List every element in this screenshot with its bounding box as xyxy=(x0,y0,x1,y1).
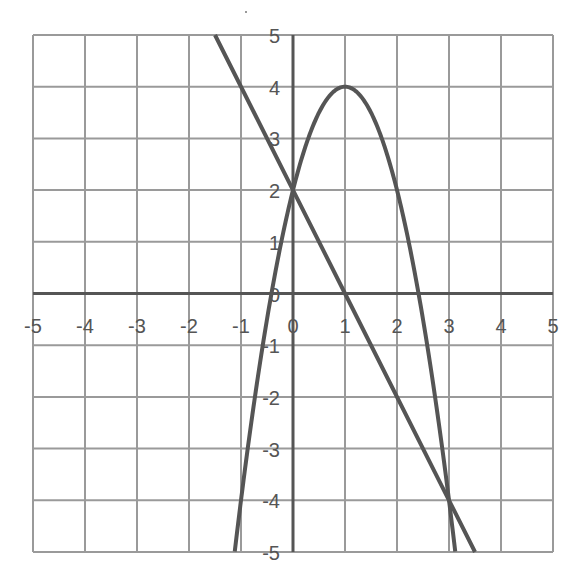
x-tick-label: 0 xyxy=(287,315,298,337)
y-tick-label: 5 xyxy=(269,25,280,47)
y-tick-label: -2 xyxy=(262,387,280,409)
x-tick-label: -2 xyxy=(180,315,198,337)
axes xyxy=(33,35,553,552)
x-tick-label: 1 xyxy=(339,315,350,337)
x-tick-label: -3 xyxy=(128,315,146,337)
x-tick-label: -4 xyxy=(76,315,94,337)
x-tick-label: 2 xyxy=(391,315,402,337)
speck-artifact xyxy=(245,11,247,13)
x-tick-labels: -5-4-3-2-1012345 xyxy=(24,315,558,337)
y-tick-label: 0 xyxy=(269,284,280,306)
y-tick-label: 2 xyxy=(269,180,280,202)
coordinate-plane-chart: -5-4-3-2-1012345 543210-1-2-3-4-5 xyxy=(0,0,585,580)
x-tick-label: 4 xyxy=(495,315,506,337)
x-tick-label: -5 xyxy=(24,315,42,337)
x-tick-label: -1 xyxy=(232,315,250,337)
y-tick-label: -4 xyxy=(262,490,280,512)
y-tick-label: 1 xyxy=(269,232,280,254)
x-tick-label: 5 xyxy=(547,315,558,337)
y-tick-label: 4 xyxy=(269,77,280,99)
x-tick-label: 3 xyxy=(443,315,454,337)
y-tick-label: -1 xyxy=(262,335,280,357)
y-tick-label: -3 xyxy=(262,439,280,461)
y-tick-label: -5 xyxy=(262,542,280,564)
y-tick-label: 3 xyxy=(269,128,280,150)
